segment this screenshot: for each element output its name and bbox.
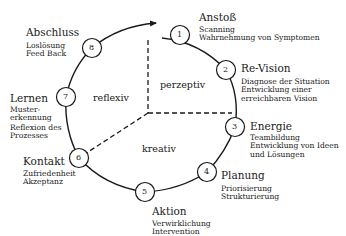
- step-detail: und Lösungen: [250, 151, 339, 160]
- step-title: Anstoß: [199, 12, 320, 23]
- step-8-label: Abschluss Loslösung Feed Back: [26, 27, 79, 59]
- step-title: Aktion: [152, 206, 211, 217]
- step-detail: erreichbaren Vision: [241, 95, 330, 104]
- step-detail: Feed Back: [26, 50, 79, 59]
- step-detail: erkennung: [10, 114, 62, 123]
- step-title: Re-Vision: [241, 63, 330, 74]
- step-detail: Wahrnehmung von Symptomen: [199, 34, 320, 43]
- step-detail: Intervention: [152, 228, 211, 236]
- step-2-label: Re-Vision Diagnose der Situation Entwick…: [241, 63, 330, 103]
- step-5-label: Aktion Verwirklichung Intervention: [152, 206, 211, 236]
- step-number-6: 6: [76, 154, 81, 162]
- step-detail: Strukturierung: [221, 193, 279, 202]
- step-1-label: Anstoß Scanning Wahrnehmung von Symptome…: [199, 12, 320, 43]
- step-number-8: 8: [89, 44, 94, 52]
- step-number-3: 3: [232, 123, 237, 131]
- step-4-label: Planung Priorisierung Strukturierung: [221, 170, 279, 202]
- step-6-label: Kontakt Zufriedenheit Akzeptanz: [23, 156, 76, 187]
- step-title: Energie: [250, 121, 339, 132]
- step-detail: Prozesses: [10, 132, 62, 141]
- step-7-label: Lernen Muster- erkennung Reflexion des P…: [10, 93, 62, 141]
- step-detail: Akzeptanz: [23, 178, 76, 187]
- zone-label-perzeptiv: perzeptiv: [160, 79, 205, 90]
- step-title: Abschluss: [26, 27, 79, 38]
- step-number-2: 2: [223, 66, 228, 74]
- zone-label-kreativ: kreativ: [142, 143, 176, 154]
- step-3-label: Energie Teambildung Entwicklung von Idee…: [250, 121, 339, 159]
- step-number-4: 4: [204, 168, 209, 176]
- step-title: Planung: [221, 170, 279, 181]
- step-number-1: 1: [177, 31, 182, 39]
- step-number-5: 5: [142, 188, 147, 196]
- step-number-7: 7: [63, 93, 68, 101]
- step-title: Kontakt: [23, 156, 76, 167]
- step-title: Lernen: [10, 93, 62, 104]
- zone-label-reflexiv: reflexiv: [93, 92, 129, 103]
